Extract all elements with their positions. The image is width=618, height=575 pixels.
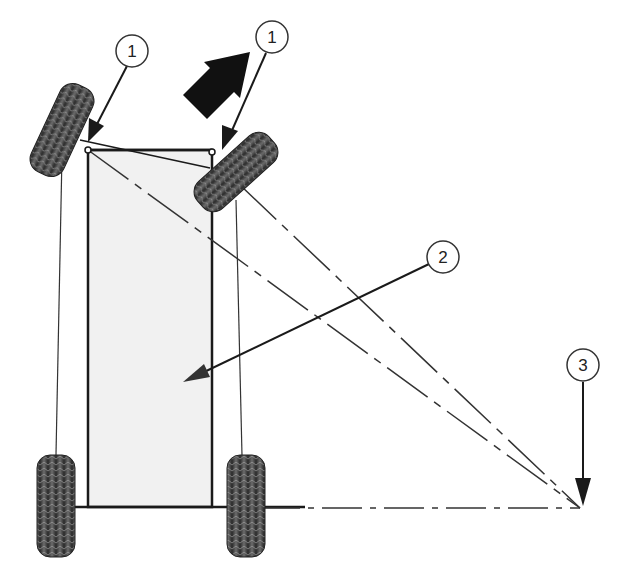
callout-3: 3 bbox=[567, 349, 599, 506]
callout-1-left-label: 1 bbox=[127, 42, 136, 61]
pivot-right bbox=[209, 149, 215, 155]
pivot-left bbox=[85, 147, 91, 153]
vehicle-body bbox=[88, 150, 212, 507]
right-track-line bbox=[236, 200, 242, 455]
right-wheel-axis-line bbox=[240, 185, 580, 508]
steering-geometry-diagram: 1 1 2 3 bbox=[0, 0, 618, 575]
tire-rear-right bbox=[227, 455, 265, 557]
callout-2-label: 2 bbox=[438, 248, 447, 267]
left-track-line bbox=[56, 155, 62, 455]
tire-rear-left bbox=[37, 455, 75, 557]
callout-1-left: 1 bbox=[88, 35, 148, 142]
forward-right-turn-arrow-icon bbox=[183, 52, 250, 119]
callout-1-right-label: 1 bbox=[267, 28, 276, 47]
callout-3-label: 3 bbox=[578, 356, 587, 375]
